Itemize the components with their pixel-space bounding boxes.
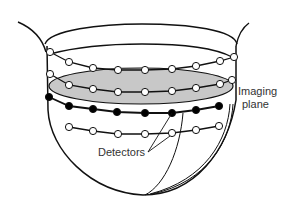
open-detector-icon xyxy=(228,76,235,83)
top-rim xyxy=(45,24,237,44)
open-detector-icon xyxy=(65,123,72,130)
open-detector-icon xyxy=(230,53,237,60)
filled-detector-icon xyxy=(215,102,222,109)
imaging-plane-label-line1: Imaging xyxy=(238,85,277,97)
open-detector-icon xyxy=(141,88,148,95)
open-detector-icon xyxy=(65,58,72,65)
open-detector-icon xyxy=(192,84,199,91)
open-detector-icon xyxy=(168,129,175,136)
open-detector-icon xyxy=(114,130,121,137)
open-detector-icon xyxy=(215,122,222,129)
left-flare xyxy=(18,22,46,52)
open-detector-icon xyxy=(216,80,223,87)
open-detector-icon xyxy=(89,127,96,134)
open-detector-icon xyxy=(168,65,175,72)
right-flare xyxy=(236,23,249,46)
second-rim xyxy=(50,44,232,57)
open-detector-icon xyxy=(46,48,53,55)
filled-detector-icon xyxy=(192,106,199,113)
open-detector-icon xyxy=(46,70,53,77)
filled-detector-icon xyxy=(89,105,96,112)
filled-detector-icon xyxy=(65,102,72,109)
open-detector-icon xyxy=(168,87,175,94)
open-detector-icon xyxy=(216,57,223,64)
open-detector-icon xyxy=(192,126,199,133)
imaging-plane-label-line2: plane xyxy=(242,98,269,110)
open-detector-icon xyxy=(114,88,121,95)
filled-detector-icon xyxy=(45,93,52,100)
detectors-label: Detectors xyxy=(98,146,146,158)
open-detector-icon xyxy=(141,66,148,73)
open-detector-icon xyxy=(65,81,72,88)
open-detector-icon xyxy=(89,64,96,71)
filled-detector-icon xyxy=(113,108,120,115)
open-detector-icon xyxy=(192,62,199,69)
pet-scanner-diagram: Imaging plane Detectors xyxy=(0,0,289,207)
filled-detector-icon xyxy=(141,109,148,116)
detectors-leader-2 xyxy=(148,136,170,152)
meridian-line-3 xyxy=(152,104,233,194)
open-detector-icon xyxy=(89,85,96,92)
open-detector-icon xyxy=(141,130,148,137)
open-detector-icon xyxy=(114,66,121,73)
